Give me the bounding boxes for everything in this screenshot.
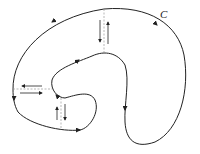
outer-curve <box>13 8 186 144</box>
curve-label: C <box>160 8 167 20</box>
diagram-stage: C <box>0 0 200 154</box>
curve-diagram <box>0 0 200 154</box>
arrowhead-icon <box>154 22 157 25</box>
arrowhead-icon <box>52 20 55 22</box>
